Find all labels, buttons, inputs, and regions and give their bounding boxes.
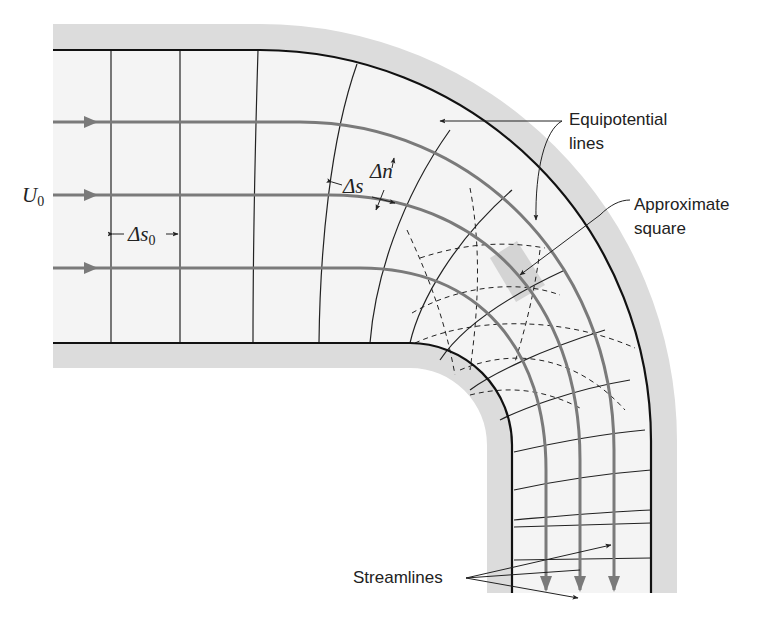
channel-interior [53,50,651,593]
inner-wall-band [53,343,512,593]
inner-wall [53,343,512,593]
flow-net-diagram [0,0,779,618]
